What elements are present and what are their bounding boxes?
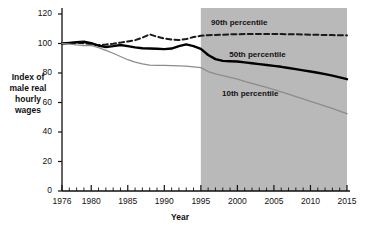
x-tick-label: 2005 [257,196,291,206]
y-tick-label: 120 [28,8,52,18]
x-tick-label: 1985 [111,196,145,206]
y-tick-label: 20 [28,156,52,166]
y-axis-title: Index of male real hourly wages [2,72,54,116]
y-axis-title-line-2: male real [2,83,54,94]
wage-index-line-chart [0,0,370,229]
x-tick-label: 1995 [184,196,218,206]
x-tick-label: 2015 [330,196,364,206]
x-tick-label: 2010 [293,196,327,206]
y-tick-label: 40 [28,126,52,136]
x-axis-title: Year [150,212,210,222]
y-tick-label: 100 [28,38,52,48]
y-tick-label: 0 [28,185,52,195]
series-label-90th-percentile: 90th percentile [211,18,267,27]
y-axis-title-line-4: wages [2,105,54,116]
y-tick-label: 60 [28,97,52,107]
chart-figure: Index of male real hourly wages Year 020… [0,0,370,229]
x-tick-label: 2000 [220,196,254,206]
y-tick-label: 80 [28,67,52,77]
series-label-50th-percentile: 50th percentile [229,50,285,59]
x-tick-label: 1980 [74,196,108,206]
series-label-10th-percentile: 10th percentile [222,89,278,98]
x-tick-label: 1990 [147,196,181,206]
